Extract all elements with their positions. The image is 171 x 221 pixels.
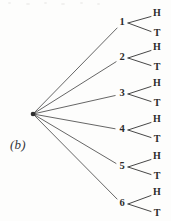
coin-outcome-label-2-T: T — [154, 61, 161, 72]
die-face-label-group: 123456 — [119, 16, 125, 208]
coin-outcome-label-2-H: H — [153, 41, 161, 52]
trunk-edge-to-1 — [33, 28, 117, 114]
coin-outcome-label-5-H: H — [153, 150, 161, 161]
coin-outcome-label-3-T: T — [154, 97, 161, 108]
branch-edge-6-T — [128, 204, 151, 212]
root-node-dot — [31, 112, 36, 117]
die-face-label-2: 2 — [119, 51, 124, 62]
coin-outcome-label-group: HTHTHTHTHTHT — [153, 7, 161, 218]
coin-outcome-label-1-T: T — [154, 27, 161, 38]
branch-edge-2-T — [128, 58, 151, 66]
die-face-label-4: 4 — [119, 123, 125, 134]
die-face-label-1: 1 — [119, 16, 124, 27]
branch-edge-1-T — [128, 23, 151, 32]
coin-outcome-label-1-H: H — [153, 7, 161, 18]
branch-edge-5-T — [128, 167, 151, 175]
branch-edge-5-H — [128, 160, 151, 168]
coin-outcome-label-4-H: H — [153, 113, 161, 124]
coin-outcome-label-6-H: H — [153, 186, 161, 197]
coin-outcome-label-6-T: T — [154, 207, 161, 218]
die-face-label-3: 3 — [119, 87, 124, 98]
branch-edge-group — [128, 17, 151, 212]
trunk-edge-to-3 — [33, 96, 115, 114]
coin-outcome-label-3-H: H — [153, 77, 161, 88]
die-face-label-5: 5 — [119, 160, 124, 171]
branch-edge-1-H — [128, 17, 151, 24]
trunk-edge-group — [33, 28, 117, 199]
branch-edge-6-H — [128, 196, 151, 205]
trunk-edge-to-2 — [33, 62, 116, 114]
figure-panel-b: 123456 HTHTHTHTHTHT (b) — [0, 0, 171, 221]
branch-edge-3-H — [128, 87, 151, 95]
die-face-label-6: 6 — [119, 197, 124, 208]
branch-edge-4-H — [128, 123, 151, 131]
branch-edge-4-T — [128, 130, 151, 138]
coin-outcome-label-5-T: T — [154, 170, 161, 181]
panel-label: (b) — [10, 137, 26, 153]
tree-diagram-canvas: 123456 HTHTHTHTHTHT — [0, 0, 171, 221]
coin-outcome-label-4-T: T — [154, 133, 161, 144]
branch-edge-2-H — [128, 51, 151, 59]
branch-edge-3-T — [128, 94, 151, 102]
